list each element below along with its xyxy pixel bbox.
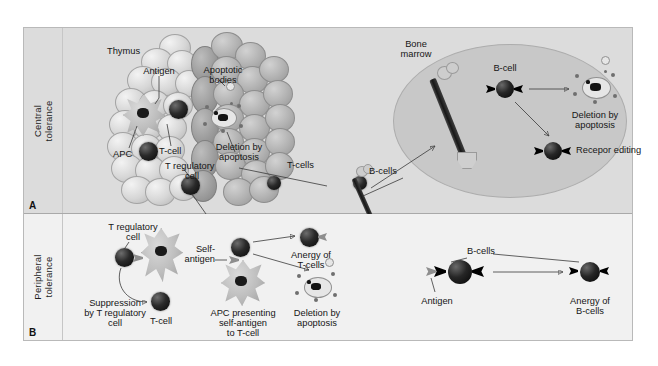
panel-a-side-label: Central tolerance xyxy=(32,100,54,141)
label-t-cell: T-cell xyxy=(159,146,181,157)
panel-b-key: B xyxy=(29,327,36,338)
anergic-b-cell-receptor-left xyxy=(569,267,578,275)
panel-a-stage: Thymus Antigen Apoptotic bodies APC T-ce… xyxy=(63,28,632,213)
anergic-b-cell-nucleus xyxy=(580,262,600,282)
anergic-b-cell-receptor-right xyxy=(600,267,609,275)
label-apc-presenting-2: self-antigen xyxy=(219,318,267,329)
thymus-t-cell-2 xyxy=(139,142,158,161)
panel-a-central-tolerance: Central tolerance A xyxy=(24,28,632,214)
immune-tolerance-figure: Central tolerance A xyxy=(23,27,633,341)
label-suppression-2: by T regulatory xyxy=(84,308,146,319)
panel-b-side-label-line2: tolerance xyxy=(43,254,54,299)
label-thymus-deletion-2: apoptosis xyxy=(219,152,259,163)
suppressed-t-cell xyxy=(151,292,170,311)
label-apc-presenting-1: APC presenting xyxy=(210,308,275,319)
thymus-apc-nucleus xyxy=(137,108,149,118)
antigen-marker xyxy=(426,267,436,276)
label-anergy-b-1: Anergy of xyxy=(570,296,610,307)
anergic-t-cell-receptor xyxy=(318,233,327,241)
label-apc: APC xyxy=(113,149,132,160)
peripheral-t-cell-presented xyxy=(231,238,250,257)
panel-a-key: A xyxy=(29,200,36,211)
peripheral-apoptotic-debris xyxy=(295,270,339,304)
thymus-t-cell-1 xyxy=(169,100,188,119)
label-peripheral-treg-1: T regulatory xyxy=(108,222,157,233)
receptor-editing-b-cell-nucleus xyxy=(544,142,562,160)
peripheral-t-regulatory-cell xyxy=(115,248,134,267)
label-bone-marrow-1: Bone xyxy=(405,39,427,50)
label-apc-presenting-3: to T-cell xyxy=(227,328,259,339)
label-self-antigen-2: antigen xyxy=(184,254,215,265)
panel-b-side-label-line1: Peripheral xyxy=(32,254,43,299)
label-anergy-t-2: T-cells xyxy=(298,260,325,271)
panel-b-side-label: Peripheral tolerance xyxy=(32,254,54,299)
label-anergy-b-2: B-cells xyxy=(576,306,604,317)
panel-b-stage: T regulatory cell Suppression by T regul… xyxy=(63,214,632,340)
label-suppression-1: Suppression xyxy=(89,298,141,309)
panel-a-side-label-line2: tolerance xyxy=(43,100,54,141)
label-apoptotic-bodies-1: Apoptotic xyxy=(204,65,243,76)
peripheral-b-cell-receptor-right xyxy=(472,266,484,277)
femur-bone-marrow xyxy=(427,62,487,172)
panel-b-connectors xyxy=(63,214,632,340)
label-thymus: Thymus xyxy=(107,46,140,57)
label-peripheral-antigen: Antigen xyxy=(421,296,453,307)
panel-b-peripheral-tolerance: Peripheral tolerance B xyxy=(24,214,632,340)
label-t-cells: T-cells xyxy=(287,160,314,171)
panel-a-side-label-line1: Central xyxy=(32,100,43,141)
self-antigen-receptor xyxy=(229,256,239,264)
marrow-b-cell-nucleus xyxy=(496,80,514,98)
label-t-regulatory-2: cell xyxy=(185,171,199,182)
label-peripheral-t-cell: T-cell xyxy=(150,316,172,327)
label-thymus-deletion-1: Deletion by xyxy=(216,142,263,153)
anergic-t-cell xyxy=(300,228,319,247)
mhc-receptor-treg xyxy=(133,254,143,262)
peripheral-b-cell-nucleus xyxy=(448,260,472,284)
label-receptor-editing: Recepor editing xyxy=(576,145,641,156)
marrow-apoptotic-body-small xyxy=(601,56,609,64)
panel-b-label-strip: Peripheral tolerance B xyxy=(24,214,63,340)
label-b-cells-panel-a: B-cells xyxy=(369,166,397,177)
thymus-apoptotic-debris xyxy=(203,102,245,134)
panel-a-label-strip: Central tolerance A xyxy=(24,28,63,213)
label-b-cells-panel-b: B-cells xyxy=(467,246,495,257)
label-t-regulatory-1: T regulatory xyxy=(165,161,214,172)
label-antigen: Antigen xyxy=(143,66,175,77)
label-suppression-3: cell xyxy=(108,318,122,329)
marrow-apoptotic-debris xyxy=(573,70,619,106)
label-marrow-deletion-1: Deletion by xyxy=(572,110,619,121)
label-apoptotic-bodies-2: bodies xyxy=(209,75,236,86)
label-b-cell: B-cell xyxy=(493,63,516,74)
label-peripheral-deletion-2: apoptosis xyxy=(297,318,337,329)
label-self-antigen-1: Self- xyxy=(196,244,215,255)
label-marrow-deletion-2: apoptosis xyxy=(575,120,615,131)
escaped-t-cell xyxy=(267,176,281,190)
label-peripheral-deletion-1: Deletion by xyxy=(294,308,341,319)
label-bone-marrow-2: marrow xyxy=(401,49,432,60)
peripheral-apc-nucleus-1 xyxy=(155,246,167,256)
label-anergy-t-1: Anergy of xyxy=(291,250,331,261)
peripheral-apc-nucleus-2 xyxy=(235,276,247,286)
label-peripheral-treg-2: cell xyxy=(126,232,140,243)
